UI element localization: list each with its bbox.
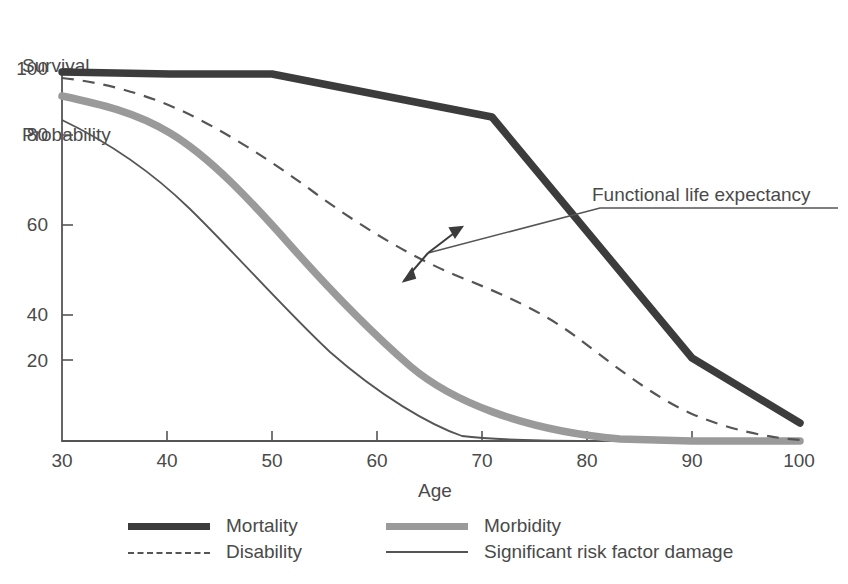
y-tick-marks: [62, 69, 73, 360]
legend-swatch-mortality-icon: [128, 519, 210, 533]
legend-row: Mortality Morbidity: [128, 513, 828, 539]
legend-label-mortality: Mortality: [226, 515, 298, 537]
legend-label-disability: Disability: [226, 541, 302, 563]
legend-item-morbidity[interactable]: Morbidity: [386, 515, 561, 537]
legend-swatch-disability-icon: [128, 545, 210, 559]
legend-item-significant-risk-factor-damage[interactable]: Significant risk factor damage: [386, 541, 733, 563]
legend-swatch-risk-factor-icon: [386, 545, 468, 559]
chart-figure: Survival Probability 100 80 60 40 20 30 …: [0, 0, 848, 584]
chart-legend: Mortality Morbidity Disability Significa…: [128, 513, 828, 565]
series-line-mortality: [62, 72, 800, 423]
annotation-double-arrow: [404, 227, 462, 281]
plot-canvas: [0, 0, 848, 584]
legend-label-morbidity: Morbidity: [484, 515, 561, 537]
series-line-morbidity: [62, 96, 800, 441]
legend-item-disability[interactable]: Disability: [128, 541, 386, 563]
legend-swatch-morbidity-icon: [386, 519, 468, 533]
annotation-leader-line: [428, 208, 838, 253]
legend-label-significant-risk-factor-damage: Significant risk factor damage: [484, 541, 733, 563]
legend-item-mortality[interactable]: Mortality: [128, 515, 386, 537]
series-line-significant-risk-factor-damage: [62, 120, 800, 441]
legend-row: Disability Significant risk factor damag…: [128, 539, 828, 565]
